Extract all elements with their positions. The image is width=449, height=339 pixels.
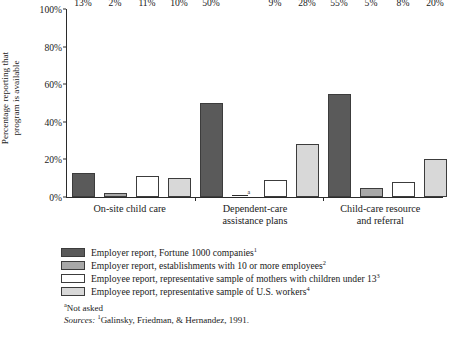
bar-value-label: 11% (138, 0, 155, 8)
bar[interactable]: 28% (296, 144, 319, 197)
bar-value-label: 10% (170, 0, 188, 8)
source-citation: Galinsky, Friedman, & Hernandez, 1991. (101, 315, 249, 325)
bar-slot: 28% (296, 9, 319, 197)
legend-item[interactable]: Employer report, Fortune 1000 companies1 (61, 246, 446, 259)
x-axis-category-label-line: assistance plans (192, 215, 317, 227)
bar-slot: 2% (104, 9, 127, 197)
y-axis-tick-mark (63, 121, 66, 122)
bar-slot: 13% (72, 9, 95, 197)
y-axis-title: Percentage reporting that program is ava… (0, 0, 30, 200)
not-asked-superscript: a (248, 189, 251, 195)
legend-swatch (61, 287, 85, 296)
chart-notes: aNot asked Sources: 1Galinsky, Friedman,… (64, 303, 449, 331)
y-axis-tick-mark (63, 84, 66, 85)
bar-group: 50%a9%28% (195, 9, 323, 197)
not-asked-rule (232, 195, 248, 196)
y-axis-tick-mark (63, 159, 66, 160)
x-axis-category-label: Child-care resourceand referral (318, 203, 443, 227)
legend-swatch (61, 274, 85, 283)
y-axis-title-line1: Percentage reporting that (0, 0, 11, 196)
x-axis-category-label-line: Dependent-care (192, 203, 317, 215)
x-axis-line (66, 197, 443, 198)
bar-slot: 55% (328, 9, 351, 197)
bar[interactable]: 8% (392, 182, 415, 197)
footnote-label: Not asked (67, 303, 103, 313)
x-axis-category-label: On-site child care (67, 203, 192, 227)
not-asked-marker: a (232, 194, 255, 197)
legend-item[interactable]: Employee report, representative sample o… (61, 285, 446, 298)
bar-value-label: 13% (74, 0, 92, 8)
bar[interactable]: 13% (72, 173, 95, 197)
y-axis-tick-mark (63, 46, 66, 47)
bar-chart-figure: Percentage reporting that program is ava… (0, 0, 449, 339)
bar-value-label: 20% (426, 0, 444, 8)
legend-superscript: 1 (254, 246, 257, 253)
sources-label: Sources: (64, 315, 95, 325)
y-axis-title-line2: program is available (11, 0, 22, 196)
x-axis-category-label-line: On-site child care (67, 203, 192, 215)
legend-superscript: 3 (377, 272, 380, 279)
legend-label: Employee report, representative sample o… (91, 286, 310, 297)
legend-item[interactable]: Employer report, establishments with 10 … (61, 259, 446, 272)
x-axis-category-label: Dependent-careassistance plans (192, 203, 317, 227)
legend-label: Employer report, Fortune 1000 companies1 (91, 247, 257, 258)
legend-superscript: 4 (307, 285, 310, 292)
bar-slot: 10% (168, 9, 191, 197)
bar-value-label: 5% (365, 0, 378, 8)
y-axis-tick-mark (63, 9, 66, 10)
bar-slot: 50% (200, 9, 223, 197)
sources-line-1: Sources: 1Galinsky, Friedman, & Hernande… (64, 315, 449, 327)
bar-group: 55%5%8%20% (323, 9, 449, 197)
legend-swatch (61, 248, 85, 257)
bar-slot: 5% (360, 9, 383, 197)
bar-value-label: 9% (269, 0, 282, 8)
bar-value-label: 8% (397, 0, 410, 8)
legend-label: Employee report, representative sample o… (91, 273, 380, 284)
legend-label: Employer report, establishments with 10 … (91, 260, 326, 271)
bar-groups: 13%2%11%10%50%a9%28%55%5%8%20% (67, 9, 443, 197)
bar-slot: 8% (392, 9, 415, 197)
bar[interactable]: 55% (328, 94, 351, 197)
chart-legend: Employer report, Fortune 1000 companies1… (61, 246, 446, 298)
bar-slot: 11% (136, 9, 159, 197)
bar-value-label: 2% (109, 0, 122, 8)
footnote-not-asked: aNot asked (64, 303, 449, 315)
legend-superscript: 2 (323, 259, 326, 266)
bar-value-label: 55% (330, 0, 348, 8)
x-axis-category-label-line: Child-care resource (318, 203, 443, 215)
x-axis-category-label-line: and referral (318, 215, 443, 227)
bar[interactable]: 9% (264, 180, 287, 197)
bar-slot: a (232, 9, 255, 197)
bar[interactable]: 50% (200, 103, 223, 197)
bar[interactable]: 2% (104, 193, 127, 197)
y-axis-tick-mark (63, 197, 66, 198)
legend-swatch (61, 261, 85, 270)
legend-item[interactable]: Employee report, representative sample o… (61, 272, 446, 285)
bar[interactable]: 10% (168, 178, 191, 197)
bar-slot: 9% (264, 9, 287, 197)
bar-value-label: 28% (298, 0, 316, 8)
bar[interactable]: 5% (360, 188, 383, 197)
bar[interactable]: 20% (424, 159, 447, 197)
bar-value-label: 50% (202, 0, 220, 8)
bar-slot: 20% (424, 9, 447, 197)
sources-line-2-clipped (100, 326, 449, 331)
bar-group: 13%2%11%10% (67, 9, 195, 197)
plot-area: 100%80%60%40%20%0% 13%2%11%10%50%a9%28%5… (66, 9, 443, 198)
x-axis-category-labels: On-site child careDependent-careassistan… (67, 203, 443, 227)
bar[interactable]: 11% (136, 176, 159, 197)
